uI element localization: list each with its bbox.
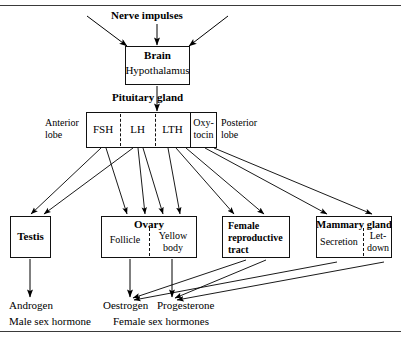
- nerve-impulses-label: Nerve impulses: [111, 10, 183, 22]
- brain-title: Brain: [125, 50, 190, 62]
- mammary-secretion-label[interactable]: Secretion: [314, 237, 364, 248]
- hormone-androgen-label: Androgen: [9, 300, 53, 312]
- arrow-lth-mammary-secretion: [205, 148, 327, 214]
- pituitary-cell-fsh[interactable]: FSH: [86, 124, 120, 136]
- pituitary-cell-lh[interactable]: LH: [120, 124, 155, 136]
- anterior-lobe-label-line2: lobe: [45, 130, 62, 141]
- hormone-oestrogen-label: Oestrogen: [103, 300, 148, 312]
- feedback-mammary-to-oestrogen: [134, 262, 337, 300]
- arrow-fsh-follicle: [106, 148, 127, 214]
- arrow-lth-ovary: [168, 148, 180, 214]
- pituitary-cell-lth[interactable]: LTH: [155, 124, 190, 136]
- feedback-mammary-to-progesterone: [177, 262, 384, 300]
- caption-male-sex-hormone: Male sex hormone: [9, 316, 91, 328]
- female-reproductive-tract-title-line1: Female: [228, 221, 259, 232]
- arrow-fsh-testis: [31, 148, 101, 214]
- hormone-progesterone-label: Progesterone: [157, 300, 214, 312]
- mammary-gland-title: Mammary gland: [314, 219, 394, 230]
- caption-female-sex-hormones: Female sex hormones: [113, 316, 209, 328]
- arrow-oxytocin-letdown: [214, 148, 372, 214]
- anterior-lobe-label-line1: Anterior: [45, 118, 79, 129]
- arrow-lh-ovary-b: [143, 148, 163, 214]
- brain-subtitle: Hypothalamus: [121, 65, 194, 77]
- posterior-lobe-label-line2: lobe: [221, 130, 238, 141]
- pituitary-cell-oxytocin-line1[interactable]: Oxy-: [190, 118, 217, 129]
- connector-layer: [0, 0, 401, 345]
- testis-title: Testis: [10, 231, 51, 243]
- female-reproductive-tract-title-line3: tract: [228, 245, 249, 256]
- arrow-lh-testis: [44, 148, 133, 214]
- arrow-nerve-right: [189, 16, 228, 46]
- ovary-yellowbody-label-line2[interactable]: body: [149, 243, 197, 254]
- posterior-lobe-label-line1: Posterior: [221, 118, 257, 129]
- pituitary-gland-label: Pituitary gland: [112, 92, 183, 104]
- female-reproductive-tract-title-line2: reproductive: [228, 233, 283, 244]
- pituitary-cell-oxytocin-line2[interactable]: tocin: [190, 130, 217, 141]
- mammary-letdown-label-line1[interactable]: Let-: [363, 231, 393, 242]
- mammary-letdown-label-line2[interactable]: down: [363, 243, 393, 254]
- diagram-canvas: Nerve impulses Brain Hypothalamus Pituit…: [0, 0, 401, 345]
- ovary-follicle-label[interactable]: Follicle: [101, 235, 149, 246]
- arrow-lh-yellowbody: [138, 148, 145, 214]
- ovary-yellowbody-label-line1[interactable]: Yellow: [149, 231, 197, 242]
- ovary-title: Ovary: [101, 219, 197, 231]
